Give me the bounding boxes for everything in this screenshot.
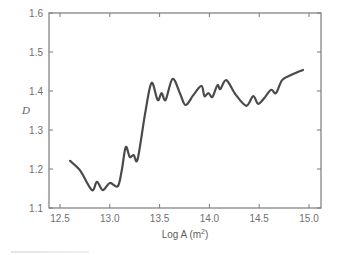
y-tick-label: 1.1 bbox=[29, 203, 43, 214]
data-line bbox=[70, 70, 303, 190]
axis-ticks bbox=[49, 13, 321, 208]
x-axis-title: Log A (m2) bbox=[162, 228, 209, 240]
line-chart: 1.11.21.31.41.51.6 12.513.013.514.014.51… bbox=[0, 0, 340, 255]
y-axis-title: D bbox=[21, 104, 30, 116]
y-tick-label: 1.6 bbox=[29, 8, 43, 19]
y-tick-label: 1.2 bbox=[29, 164, 43, 175]
x-tick-label: 13.5 bbox=[150, 213, 170, 224]
plot-frame bbox=[49, 13, 321, 208]
y-tick-label: 1.4 bbox=[29, 86, 43, 97]
x-tick-label: 14.5 bbox=[249, 213, 269, 224]
y-tick-labels: 1.11.21.31.41.51.6 bbox=[29, 8, 43, 214]
x-tick-label: 12.5 bbox=[50, 213, 70, 224]
caption-divider bbox=[11, 251, 89, 253]
y-tick-label: 1.5 bbox=[29, 47, 43, 58]
x-tick-labels: 12.513.013.514.014.515.0 bbox=[50, 213, 319, 224]
x-tick-label: 14.0 bbox=[200, 213, 220, 224]
x-tick-label: 15.0 bbox=[299, 213, 319, 224]
x-tick-label: 13.0 bbox=[100, 213, 120, 224]
y-tick-label: 1.3 bbox=[29, 125, 43, 136]
